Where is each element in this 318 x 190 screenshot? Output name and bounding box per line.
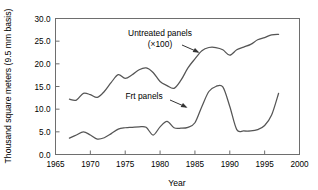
- frt-panels-annotation: Frt panels: [125, 91, 187, 108]
- y-tick-label: 20.0: [35, 60, 51, 69]
- untreated-panels-annotation-line1: Untreated panels: [128, 28, 192, 38]
- data-series-group: [69, 34, 278, 139]
- y-tick-label: 15.0: [35, 83, 51, 92]
- line-chart-figure: 0.05.010.015.020.025.030.0 1965197019751…: [0, 0, 318, 190]
- y-axis-ticks: [56, 19, 60, 155]
- y-axis-title: Thousand square meters (9.5 mm basis): [3, 8, 13, 163]
- plot-frame: [56, 19, 300, 155]
- x-tick-label: 2000: [290, 160, 309, 169]
- chart-container: 0.05.010.015.020.025.030.0 1965197019751…: [0, 0, 318, 190]
- y-tick-label: 25.0: [35, 37, 51, 46]
- x-tick-label: 1970: [81, 160, 100, 169]
- frt-panels-arrow-icon: [170, 100, 188, 108]
- x-axis-tick-labels: 19651970197519801985199019952000: [46, 160, 309, 169]
- untreated-panels-arrow-icon: [182, 45, 200, 53]
- x-tick-label: 1985: [186, 160, 205, 169]
- x-tick-label: 1980: [151, 160, 170, 169]
- x-tick-label: 1975: [116, 160, 135, 169]
- x-axis-title: Year: [168, 178, 186, 188]
- y-tick-label: 30.0: [35, 15, 51, 24]
- series-line-untreated-panels: [69, 34, 278, 100]
- y-tick-label: 10.0: [35, 105, 51, 114]
- x-axis-ticks: [56, 151, 300, 155]
- series-line-frt-panels: [69, 85, 278, 139]
- y-axis-tick-labels: 0.05.010.015.020.025.030.0: [35, 15, 51, 160]
- untreated-panels-annotation: Untreated panels (×100): [128, 28, 199, 53]
- y-tick-label: 0.0: [39, 151, 51, 160]
- frt-panels-annotation-line1: Frt panels: [125, 91, 162, 101]
- x-tick-label: 1965: [46, 160, 65, 169]
- x-tick-label: 1995: [256, 160, 275, 169]
- untreated-panels-annotation-line2: (×100): [148, 39, 173, 49]
- x-tick-label: 1990: [221, 160, 240, 169]
- y-tick-label: 5.0: [39, 128, 51, 137]
